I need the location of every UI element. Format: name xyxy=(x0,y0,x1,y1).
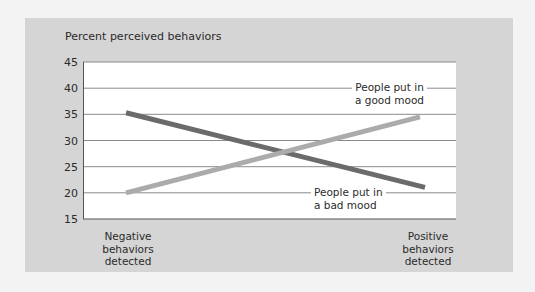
good-mood-label-line2: a good mood xyxy=(355,94,424,107)
y-tick-30: 30 xyxy=(64,135,78,148)
cat-pos-line3: detected xyxy=(396,255,460,268)
y-tick-45: 45 xyxy=(64,56,78,69)
cat-pos-line2: behaviors xyxy=(396,243,460,256)
cat-neg-line1: Negative xyxy=(96,230,160,243)
y-tick-labels: 45 40 35 30 25 20 15 xyxy=(64,56,78,226)
cat-neg-line3: detected xyxy=(96,255,160,268)
cat-neg-line2: behaviors xyxy=(96,243,160,256)
y-tick-40: 40 xyxy=(64,82,78,95)
good-mood-label-line1: People put in xyxy=(355,81,424,94)
x-category-positive: Positive behaviors detected xyxy=(396,230,460,268)
y-tick-20: 20 xyxy=(64,187,78,200)
series-label-bad-mood: People put in a bad mood xyxy=(311,186,386,211)
x-category-negative: Negative behaviors detected xyxy=(96,230,160,268)
cat-pos-line1: Positive xyxy=(396,230,460,243)
y-tick-25: 25 xyxy=(64,161,78,174)
bad-mood-label-line2: a bad mood xyxy=(314,199,383,212)
bad-mood-label-line1: People put in xyxy=(314,186,383,199)
series-label-good-mood: People put in a good mood xyxy=(352,81,427,106)
y-tick-35: 35 xyxy=(64,108,78,121)
y-tick-15: 15 xyxy=(64,213,78,226)
